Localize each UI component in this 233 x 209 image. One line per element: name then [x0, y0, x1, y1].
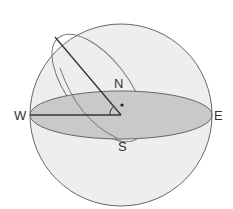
- label-west: W: [14, 108, 27, 123]
- label-east: E: [214, 108, 223, 123]
- celestial-sphere-diagram: N S W E: [0, 0, 233, 209]
- label-south: S: [118, 139, 127, 154]
- label-north: N: [114, 76, 123, 91]
- zenith-dot: [120, 103, 123, 106]
